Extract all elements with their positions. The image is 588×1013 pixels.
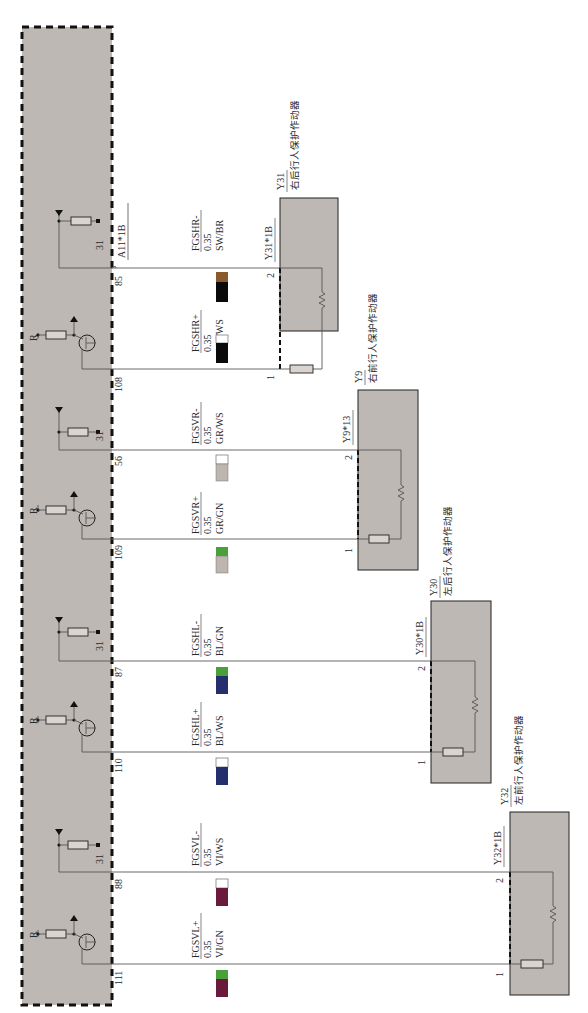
control-unit-connector-label: A11*1B [116, 224, 127, 258]
pin-number: 111 [113, 971, 124, 985]
svg-text:VI/WS: VI/WS [214, 838, 225, 866]
svg-text:FGSVL-: FGSVL- [190, 831, 201, 866]
pin-number: 56 [113, 456, 124, 466]
svg-text:FGSHR+: FGSHR+ [190, 314, 201, 352]
actuator-name: 右前行人保护作动器 [367, 293, 378, 383]
wire-color-swatch [216, 272, 228, 302]
actuator-y32: 2 1 Y32*1B Y32 左前行人保护作动器 [492, 715, 569, 995]
svg-text:0.35: 0.35 [202, 517, 213, 535]
pin-number: 109 [113, 545, 124, 560]
svg-text:VI/GN: VI/GN [214, 930, 225, 958]
pin-number: 85 [113, 276, 124, 286]
wire-color-swatch [216, 970, 228, 997]
wire-color-swatch [216, 758, 228, 785]
wire-color-swatch [216, 667, 228, 694]
wire-label: FGSVR- 0.35 GR/WS [190, 402, 225, 445]
pin-number: 108 [113, 377, 124, 392]
actuator-name: 右后行人保护作动器 [289, 100, 300, 190]
pin-number: 110 [113, 758, 124, 773]
svg-text:FGSVR+: FGSVR+ [190, 496, 201, 534]
svg-text:FGSHR-: FGSHR- [190, 215, 201, 251]
svg-text:SW/BR: SW/BR [214, 220, 225, 251]
wire-color-swatch [216, 335, 228, 363]
actuator-connector-label: Y30*1B [414, 621, 425, 655]
wire-label: FGSVR+ 0.35 GR/GN [190, 492, 225, 535]
wire-label: FGSHL- 0.35 BL/GN [190, 614, 225, 657]
actuator-name: 左后行人保护作动器 [442, 506, 453, 596]
svg-text:0.35: 0.35 [202, 849, 213, 867]
ground-label: 31 [94, 641, 105, 651]
svg-text:0.35: 0.35 [202, 941, 213, 959]
pin-number: 87 [113, 667, 124, 677]
svg-text:2: 2 [265, 273, 276, 278]
svg-text:BL/GN: BL/GN [214, 626, 225, 656]
svg-text:GR/GN: GR/GN [214, 503, 225, 534]
pin-number: 88 [113, 879, 124, 889]
svg-text:2: 2 [343, 455, 354, 460]
svg-text:FGSHL+: FGSHL+ [190, 708, 201, 746]
wire-label: FGSHR- 0.35 SW/BR [190, 210, 225, 252]
actuator-y31: 2 1 Y31*1B Y31 右后行人保护作动器 [263, 100, 338, 380]
actuator-ref: Y30 [428, 579, 439, 596]
circuit-fgsvl-minus: 31 88 FGSVL- 0.35 VI/WS [55, 823, 510, 906]
actuator-ref: Y31 [275, 173, 286, 190]
svg-text:0.35: 0.35 [202, 335, 213, 353]
ground-label: 31 [94, 240, 105, 250]
wire-color-swatch [216, 547, 228, 573]
actuator-connector-label: Y9*13 [341, 416, 352, 443]
svg-text:1: 1 [343, 548, 354, 553]
wire-label: FGSVL- 0.35 VI/WS [190, 823, 225, 867]
svg-text:0.35: 0.35 [202, 729, 213, 747]
svg-text:2: 2 [416, 666, 427, 671]
wiring-diagram: A11*1B 31 85 FGSHR- 0.35 SW/BR [0, 0, 588, 1013]
ground-label: 31 [94, 854, 105, 864]
svg-text:1: 1 [416, 760, 427, 765]
wire-color-swatch [216, 879, 228, 906]
svg-text:2: 2 [494, 878, 505, 883]
svg-text:BL/WS: BL/WS [214, 715, 225, 746]
svg-text:FGSVR-: FGSVR- [190, 408, 201, 444]
actuator-name: 左前行人保护作动器 [513, 715, 524, 805]
actuator-ref: Y32 [499, 788, 510, 805]
svg-text:1: 1 [265, 375, 276, 380]
actuator-ref: Y9 [353, 371, 364, 383]
svg-text:GR/WS: GR/WS [214, 412, 225, 444]
svg-text:0.35: 0.35 [202, 639, 213, 657]
actuator-connector-label: Y31*1B [263, 226, 274, 260]
actuator-y9: 2 1 Y9*13 Y9 右前行人保护作动器 [341, 293, 418, 570]
svg-text:FGSVL+: FGSVL+ [190, 920, 201, 958]
wire-label: FGSHL+ 0.35 BL/WS [190, 702, 225, 747]
actuator-connector-label: Y32*1B [492, 831, 503, 865]
svg-text:0.35: 0.35 [202, 234, 213, 252]
svg-text:0.35: 0.35 [202, 427, 213, 445]
ground-label: 31 [94, 431, 105, 441]
actuator-y30: 2 1 Y30*1B Y30 左后行人保护作动器 [414, 506, 491, 783]
svg-text:FGSHL-: FGSHL- [190, 621, 201, 656]
svg-text:1: 1 [494, 972, 505, 977]
wire-label: FGSVL+ 0.35 VI/GN [190, 913, 225, 959]
wire-color-swatch [216, 455, 228, 481]
